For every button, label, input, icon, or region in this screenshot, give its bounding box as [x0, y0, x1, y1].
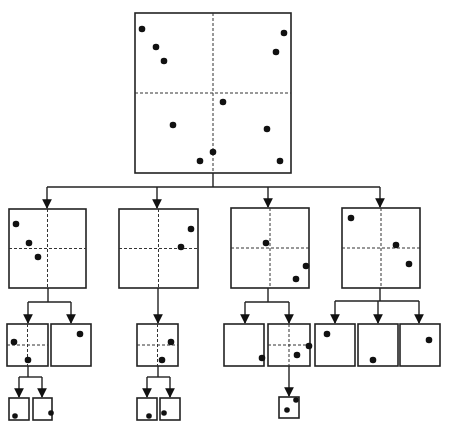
quadtree-node-root — [135, 13, 291, 173]
data-point — [220, 99, 227, 106]
tree-edge — [335, 288, 419, 323]
quadtree-node-q4a — [315, 324, 355, 366]
data-point — [277, 158, 284, 165]
data-point — [178, 244, 185, 251]
data-point — [153, 44, 160, 51]
data-point — [48, 410, 54, 416]
data-point — [263, 240, 270, 247]
data-point — [284, 407, 290, 413]
quadtree-node-q2a1 — [137, 398, 157, 420]
data-point — [188, 226, 195, 233]
data-point — [25, 357, 32, 364]
quadtree-node-q4c — [400, 324, 440, 366]
quadtree-node-q4 — [342, 208, 420, 288]
quadtree-node-q2 — [119, 209, 198, 288]
tree-edge — [147, 366, 170, 397]
data-point — [370, 357, 377, 364]
data-point — [273, 49, 280, 56]
data-point — [146, 413, 152, 419]
data-point — [259, 355, 266, 362]
quadtree-node-q3a — [224, 324, 265, 366]
data-point — [170, 122, 177, 129]
data-point — [13, 221, 20, 228]
data-point — [161, 58, 168, 65]
data-point — [168, 339, 175, 346]
quadtree-node-q1a2 — [33, 398, 54, 420]
data-point — [139, 26, 146, 33]
data-point — [12, 413, 18, 419]
quadtree-node-q1 — [9, 209, 86, 288]
quadtree-node-q3b1 — [279, 397, 299, 418]
quadtree-node-q3 — [231, 208, 309, 288]
data-point — [210, 149, 217, 156]
data-point — [293, 397, 299, 403]
quadtree-diagram — [0, 0, 453, 427]
quadtree-node-q2a — [137, 324, 178, 366]
data-point — [306, 343, 313, 350]
quadtree-node-q2a2 — [160, 398, 180, 420]
data-point — [35, 254, 42, 261]
data-point — [293, 276, 300, 283]
quadtree-node-q1a — [7, 324, 48, 366]
tree-edge — [47, 173, 380, 208]
data-point — [393, 242, 400, 249]
data-point — [426, 337, 433, 344]
tree-edge — [245, 288, 289, 323]
data-point — [303, 263, 310, 270]
data-point — [281, 30, 288, 37]
tree-edge — [28, 288, 71, 323]
quadtree-node-q4b — [358, 324, 398, 366]
data-point — [77, 331, 84, 338]
quadtree-node-q1b — [51, 324, 91, 366]
data-point — [294, 352, 301, 359]
tree-nodes — [7, 13, 440, 420]
data-point — [197, 158, 204, 165]
data-point — [264, 126, 271, 133]
data-point — [348, 215, 355, 222]
data-point — [159, 357, 166, 364]
quadtree-node-q3b — [268, 324, 312, 366]
data-point — [324, 331, 331, 338]
tree-edge — [19, 366, 42, 397]
data-point — [161, 410, 167, 416]
quadtree-node-q1a1 — [9, 398, 29, 420]
data-point — [11, 339, 18, 346]
data-point — [406, 261, 413, 268]
data-point — [26, 240, 33, 247]
